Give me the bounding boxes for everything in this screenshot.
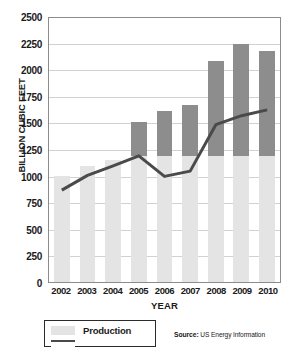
bar-segment-production: [259, 156, 275, 282]
bar-segment-production: [80, 166, 96, 282]
bar-stack: [80, 166, 96, 282]
x-tick-label-2010: 2010: [255, 285, 281, 299]
y-tick-label: 1000: [0, 171, 42, 182]
bar-segment-imports: [259, 51, 275, 156]
chart-legend: Production: [44, 320, 156, 347]
x-tick-label-2009: 2009: [229, 285, 255, 299]
bar-stack: [105, 160, 121, 282]
x-tick-label-2006: 2006: [152, 285, 178, 299]
bar-segment-production: [208, 156, 224, 282]
y-tick-label: 250: [0, 251, 42, 262]
bar-stack: [131, 122, 147, 282]
bar-group-2008: [203, 18, 229, 282]
bar-segment-production: [131, 156, 147, 282]
bar-group-2007: [177, 18, 203, 282]
bar-stack: [233, 44, 249, 282]
x-tick-label-2002: 2002: [48, 285, 74, 299]
y-tick-label: 2000: [0, 65, 42, 76]
x-tick-label-2008: 2008: [203, 285, 229, 299]
legend-item-label: Production: [83, 325, 131, 336]
chart-container: BILLION CUBIC FEET 250022502000175015001…: [0, 0, 285, 347]
bar-group-2004: [100, 18, 126, 282]
bar-segment-imports: [157, 111, 173, 156]
x-tick-label-2003: 2003: [74, 285, 100, 299]
bar-segment-production: [182, 156, 198, 282]
x-axis-title: YEAR: [48, 300, 281, 311]
bar-stack: [208, 61, 224, 282]
y-tick-label: 500: [0, 224, 42, 235]
bar-segment-imports: [182, 105, 198, 156]
legend-item: Production: [51, 325, 149, 336]
bar-segment-imports: [208, 61, 224, 156]
y-tick-label: 0: [0, 278, 42, 289]
bar-stack: [54, 176, 70, 282]
source-label: Source:: [174, 331, 199, 338]
x-tick-label-2007: 2007: [177, 285, 203, 299]
legend-swatch-production-bar: [51, 326, 75, 335]
bar-segment-production: [233, 156, 249, 282]
legend-item: [51, 339, 149, 347]
bar-group-2003: [75, 18, 101, 282]
bar-group-2005: [126, 18, 152, 282]
source-text: US Energy Information: [200, 331, 265, 338]
y-tick-label: 2250: [0, 38, 42, 49]
bar-group-2006: [152, 18, 178, 282]
bar-group-2010: [254, 18, 280, 282]
x-axis-tick-labels: 200220032004200520062007200820092010: [48, 285, 281, 299]
bar-segment-imports: [131, 122, 147, 156]
x-tick-label-2004: 2004: [100, 285, 126, 299]
bar-segment-imports: [233, 44, 249, 156]
y-tick-label: 1250: [0, 145, 42, 156]
y-tick-label: 2500: [0, 12, 42, 23]
bar-segment-production: [105, 160, 121, 282]
y-tick-label: 1750: [0, 91, 42, 102]
y-tick-label: 1500: [0, 118, 42, 129]
y-tick-label: 750: [0, 198, 42, 209]
source-note: Source: US Energy Information: [174, 331, 285, 338]
bar-stack: [259, 51, 275, 282]
bar-segment-production: [157, 156, 173, 282]
y-axis-tick-labels: 25002250200017501500125010007505002500: [0, 0, 45, 347]
x-tick-label-2005: 2005: [126, 285, 152, 299]
bar-segment-production: [54, 176, 70, 282]
bar-stack: [157, 111, 173, 282]
plot-area: [48, 17, 281, 283]
bar-group-2009: [229, 18, 255, 282]
legend-swatch-production-line: [51, 340, 75, 347]
cropped-title-sliver: [120, 0, 250, 4]
bar-stack: [182, 105, 198, 282]
bar-series-group: [49, 18, 280, 282]
bar-group-2002: [49, 18, 75, 282]
